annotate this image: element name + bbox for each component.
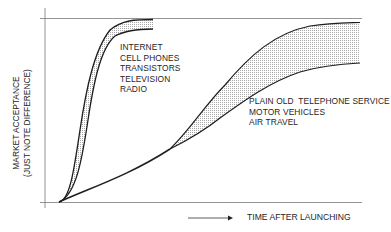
label-transistors: TRANSISTORS [120, 63, 181, 74]
label-motor-vehicles: MOTOR VEHICLES [249, 107, 390, 118]
label-plain-old-telephone-service: PLAIN OLD TELEPHONE SERVICE [249, 96, 390, 107]
label-air-travel: AIR TRAVEL [249, 117, 390, 128]
label-radio: RADIO [120, 84, 181, 95]
x-axis-label: TIME AFTER LAUNCHING [247, 212, 351, 222]
label-internet: INTERNET [120, 42, 181, 53]
label-television: TELEVISION [120, 74, 181, 85]
time-arrow-head [228, 216, 233, 221]
y-axis-label-line2: (JUST NOTE DIFFERENCE) [22, 58, 33, 188]
fast-group-labels: INTERNET CELL PHONES TRANSISTORS TELEVIS… [120, 42, 181, 95]
y-axis-label: MARKET ACCEPTANCE (JUST NOTE DIFFERENCE) [11, 58, 32, 188]
slow-group-labels: PLAIN OLD TELEPHONE SERVICE MOTOR VEHICL… [249, 96, 390, 128]
label-cell-phones: CELL PHONES [120, 53, 181, 64]
y-axis-label-line1: MARKET ACCEPTANCE [11, 58, 22, 188]
slow-band-fill [170, 23, 360, 150]
